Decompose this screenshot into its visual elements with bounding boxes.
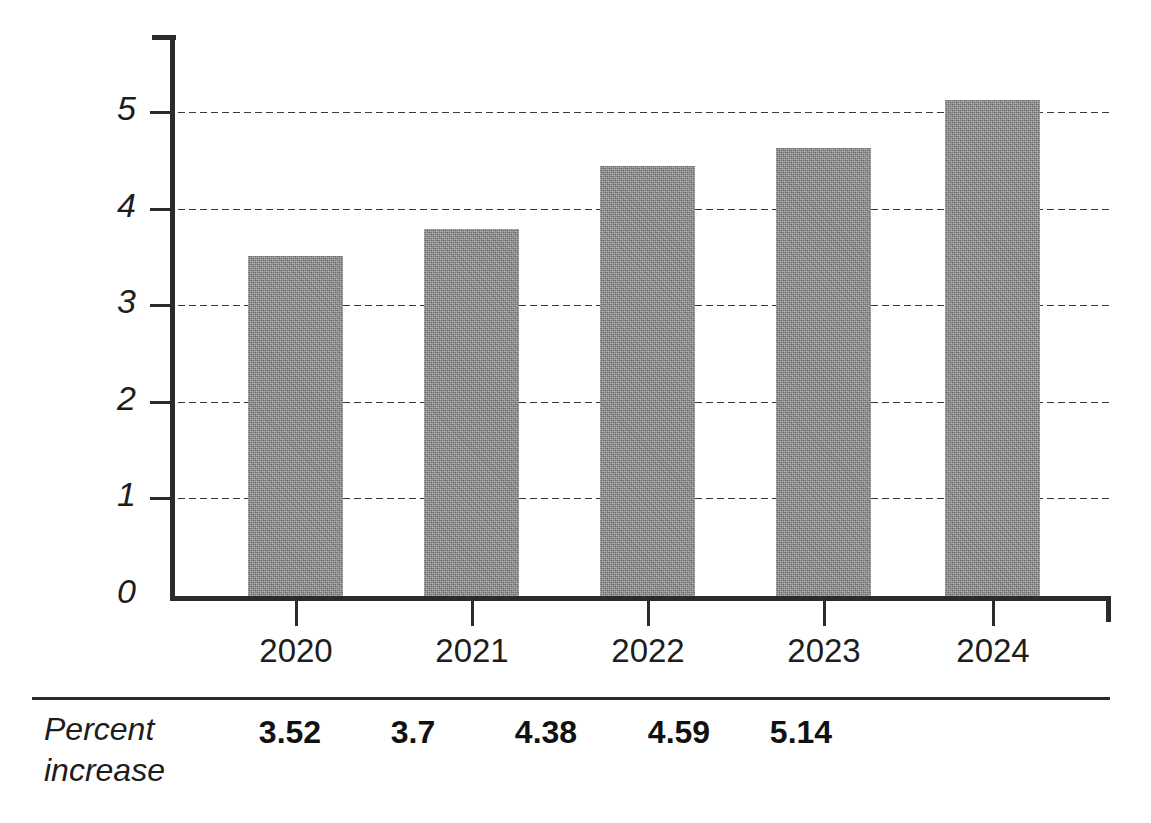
- y-axis-label-4: 4: [90, 186, 136, 225]
- table-cell-2024: 5.14: [721, 714, 881, 751]
- bar-2024: [945, 100, 1040, 596]
- y-axis-line: [170, 35, 175, 601]
- x-axis-label-2020: 2020: [216, 632, 376, 670]
- table-row-header-line2: increase: [44, 750, 234, 791]
- y-axis-label-2: 2: [90, 379, 136, 418]
- y-axis-label-3: 3: [90, 282, 136, 321]
- x-axis-line: [170, 596, 1111, 601]
- bar-2021: [424, 229, 519, 596]
- x-tick-2022: [647, 601, 650, 626]
- x-tick-2021: [471, 601, 474, 626]
- x-axis-end-cap: [1106, 596, 1111, 622]
- bar-2022: [600, 166, 695, 596]
- y-tick-3: [150, 304, 172, 307]
- bar-2020: [248, 256, 343, 596]
- table-top-rule: [32, 697, 1110, 700]
- chart-page: 5 4 3 2 1 0 2020 2021 2022 2023 2024 Per…: [0, 0, 1151, 823]
- x-axis-label-2022: 2022: [568, 632, 728, 670]
- cropped-title: [300, 0, 1000, 5]
- y-axis-label-1: 1: [90, 475, 136, 514]
- table-row-header: Percent increase: [44, 709, 234, 791]
- x-tick-2020: [295, 601, 298, 626]
- y-tick-4: [150, 208, 172, 211]
- x-axis-label-2024: 2024: [913, 632, 1073, 670]
- y-tick-1: [150, 497, 172, 500]
- x-tick-2023: [823, 601, 826, 626]
- y-tick-5: [150, 111, 172, 114]
- y-tick-2: [150, 401, 172, 404]
- y-axis-label-5: 5: [90, 89, 136, 128]
- y-axis-label-0: 0: [90, 572, 136, 611]
- x-axis-label-2023: 2023: [744, 632, 904, 670]
- x-tick-2024: [992, 601, 995, 626]
- table-row-header-line1: Percent: [44, 709, 234, 750]
- bar-2023: [776, 148, 871, 596]
- x-axis-label-2021: 2021: [392, 632, 552, 670]
